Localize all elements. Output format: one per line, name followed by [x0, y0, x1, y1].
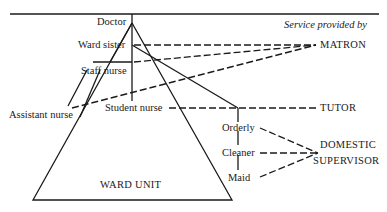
label-doctor: Doctor: [97, 17, 126, 28]
label-supervisor: SUPERVISOR: [313, 156, 379, 167]
orderly-domestic-link: [260, 128, 318, 153]
label-matron: MATRON: [320, 40, 366, 51]
label-assistant-nurse: Assistant nurse: [9, 110, 73, 121]
assistant-matron-link: [72, 45, 316, 108]
label-maid: Maid: [228, 173, 250, 184]
service-caption: Service provided by: [284, 20, 367, 31]
label-orderly: Orderly: [222, 123, 255, 134]
label-staff-nurse: Staff nurse: [81, 66, 127, 77]
wardsister-domestic-line: [132, 45, 238, 108]
staffnurse-matron-link: [134, 45, 316, 62]
label-tutor: TUTOR: [320, 103, 356, 114]
label-student-nurse: Student nurse: [105, 103, 162, 114]
label-ward-sister: Ward sister: [78, 40, 125, 51]
maid-domestic-link: [260, 153, 318, 177]
label-domestic: DOMESTIC: [320, 140, 376, 151]
label-cleaner: Cleaner: [222, 148, 255, 159]
label-ward-unit: WARD UNIT: [100, 180, 161, 191]
